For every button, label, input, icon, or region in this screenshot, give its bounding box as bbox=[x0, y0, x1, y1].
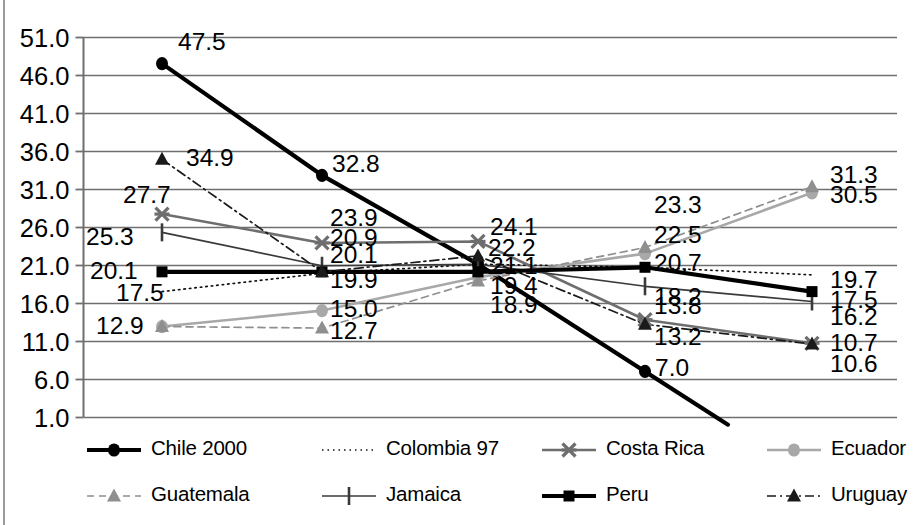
data-point-marker bbox=[471, 235, 486, 248]
data-value-label: 10.7 bbox=[830, 329, 878, 356]
data-value-label: 20.1 bbox=[330, 241, 378, 268]
legend-item-label: Chile 2000 bbox=[145, 436, 247, 460]
data-value-label: 19.7 bbox=[830, 266, 878, 293]
data-value-label: 7.0 bbox=[655, 354, 689, 381]
legend-item-label: Colombia 97 bbox=[380, 436, 499, 460]
y-axis-tick-label: 36.0 bbox=[20, 138, 70, 166]
data-value-label: 13.2 bbox=[654, 323, 702, 350]
series-line bbox=[162, 187, 812, 328]
y-axis-tick-label: 41.0 bbox=[20, 100, 70, 128]
legend-item-costa-rica[interactable]: Costa Rica bbox=[538, 436, 704, 460]
series-line bbox=[162, 267, 812, 291]
series-line bbox=[162, 232, 812, 301]
data-value-label: 25.3 bbox=[86, 223, 134, 250]
legend-item-label: Ecuador bbox=[825, 436, 906, 460]
data-value-label: 12.9 bbox=[96, 312, 144, 339]
data-value-label: 12.7 bbox=[330, 317, 378, 344]
legend-item-guatemala[interactable]: Guatemala bbox=[83, 482, 249, 506]
data-value-label: 34.9 bbox=[186, 144, 234, 171]
legend-item-uruguay[interactable]: Uruguay bbox=[763, 482, 907, 506]
data-value-label: 18.9 bbox=[490, 291, 538, 318]
data-value-label: 47.5 bbox=[178, 28, 226, 55]
data-point-marker bbox=[316, 304, 328, 317]
grid-and-axis: 51.046.041.036.031.026.021.016.011.06.01… bbox=[20, 24, 897, 431]
legend-item-label: Guatemala bbox=[145, 482, 249, 506]
legend-key-swatch bbox=[318, 438, 380, 458]
legend-item-chile-2000[interactable]: Chile 2000 bbox=[83, 436, 247, 460]
legend-key-swatch bbox=[763, 484, 825, 504]
data-point-marker bbox=[315, 236, 330, 249]
legend-item-label: Costa Rica bbox=[600, 436, 704, 460]
legend-item-jamaica[interactable]: Jamaica bbox=[318, 482, 461, 506]
legend-key-swatch bbox=[83, 484, 145, 504]
data-point-marker bbox=[473, 266, 484, 277]
y-axis-tick-label: 11.0 bbox=[22, 328, 70, 356]
data-value-label: 24.1 bbox=[490, 213, 538, 240]
data-value-label: 17.5 bbox=[116, 279, 164, 306]
legend-item-label: Uruguay bbox=[825, 482, 907, 506]
legend-item-label: Jamaica bbox=[380, 482, 461, 506]
value-labels-group: 47.532.87.034.922.213.210.627.723.924.11… bbox=[86, 28, 878, 381]
data-point-marker bbox=[640, 262, 651, 273]
data-point-marker bbox=[805, 179, 819, 192]
legend-item-ecuador[interactable]: Ecuador bbox=[763, 436, 906, 460]
y-axis-tick-label: 1.0 bbox=[34, 404, 69, 431]
data-value-label: 32.8 bbox=[332, 150, 380, 177]
legend-key-swatch bbox=[318, 484, 380, 504]
data-point-marker bbox=[108, 443, 120, 456]
data-value-label: 27.7 bbox=[123, 181, 171, 208]
legend-item-colombia-97[interactable]: Colombia 97 bbox=[318, 436, 499, 460]
data-point-marker bbox=[107, 489, 121, 502]
data-value-label: 19.9 bbox=[330, 266, 378, 293]
chart-page: 51.046.041.036.031.026.021.016.011.06.01… bbox=[0, 0, 918, 525]
y-axis-tick-label: 6.0 bbox=[34, 366, 69, 394]
data-value-label: 31.3 bbox=[830, 161, 878, 188]
data-point-marker bbox=[157, 266, 168, 277]
data-point-marker bbox=[156, 57, 168, 70]
data-point-marker bbox=[807, 286, 818, 297]
data-point-marker bbox=[155, 208, 170, 221]
data-point-marker bbox=[471, 248, 485, 261]
y-axis-tick-label: 31.0 bbox=[20, 176, 70, 204]
data-point-marker bbox=[562, 444, 577, 457]
line-chart-plot: 51.046.041.036.031.026.021.016.011.06.01… bbox=[0, 0, 918, 430]
y-axis-tick-label: 16.0 bbox=[20, 290, 70, 318]
y-axis-tick-label: 51.0 bbox=[20, 24, 70, 52]
series-lines-group bbox=[162, 64, 812, 425]
data-value-label: 18.2 bbox=[654, 283, 702, 310]
data-point-marker bbox=[315, 321, 329, 334]
legend-item-peru[interactable]: Peru bbox=[538, 482, 649, 506]
legend-key-swatch bbox=[538, 438, 600, 458]
y-axis-tick-label: 26.0 bbox=[20, 214, 70, 242]
series-line bbox=[162, 64, 645, 372]
data-point-marker bbox=[639, 365, 651, 378]
legend-key-swatch bbox=[763, 438, 825, 458]
y-axis-tick-label: 46.0 bbox=[20, 62, 70, 90]
data-point-marker bbox=[316, 169, 328, 182]
data-point-marker bbox=[788, 443, 800, 456]
data-value-label: 23.3 bbox=[654, 191, 702, 218]
legend-item-label: Peru bbox=[600, 482, 649, 506]
data-point-marker bbox=[787, 489, 801, 502]
data-point-marker bbox=[155, 152, 169, 165]
chart-legend: Chile 2000Colombia 97Costa RicaEcuadorGu… bbox=[83, 430, 903, 525]
data-value-label: 22.5 bbox=[654, 221, 702, 248]
data-point-marker bbox=[564, 491, 575, 502]
legend-key-swatch bbox=[538, 484, 600, 504]
data-value-label: 20.7 bbox=[654, 249, 702, 276]
legend-key-swatch bbox=[83, 438, 145, 458]
y-axis-tick-label: 21.0 bbox=[20, 252, 70, 280]
